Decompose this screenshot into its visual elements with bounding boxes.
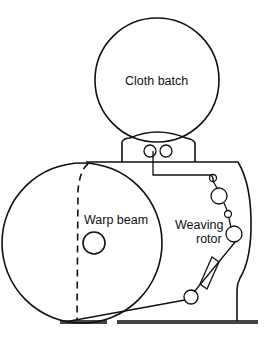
- guide-roller-3: [225, 211, 232, 218]
- weaving-machine-diagram: Cloth batch Warp beam Weaving rotor: [0, 0, 272, 345]
- weaving-rotor-label-line2: rotor: [196, 232, 222, 246]
- guide-roller-2: [211, 188, 227, 204]
- warp-beam-hub: [83, 232, 105, 254]
- take-up-roller-left: [144, 145, 156, 157]
- back-rest-roller: [184, 290, 198, 304]
- warp-beam-label: Warp beam: [84, 213, 148, 227]
- weaving-rotor-roller: [226, 226, 242, 242]
- warp-beam-roll: [2, 163, 162, 323]
- machine-frame: [86, 162, 251, 321]
- take-up-roller-right: [160, 145, 172, 157]
- weaving-rotor-label-line1: Weaving: [175, 218, 223, 232]
- cloth-batch-label: Cloth batch: [125, 74, 188, 88]
